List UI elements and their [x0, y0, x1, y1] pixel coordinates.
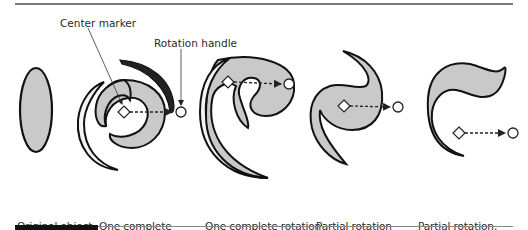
rotation-handle-label: Rotation handle	[154, 37, 237, 49]
panel-label-one-complete: One complete rotation	[99, 195, 172, 230]
rotation-handle-icon	[284, 79, 294, 89]
center-marker-icon	[453, 127, 465, 139]
center-marker-label: Center marker	[60, 17, 136, 29]
spiral-offset-shape	[200, 57, 294, 178]
panel-label-partial: Partial rotation	[316, 195, 392, 230]
spiral-shape	[78, 60, 186, 170]
rotation-handle-icon	[508, 128, 518, 138]
panel-label-one-complete-offset: One complete rotation using center offse…	[205, 195, 321, 230]
center-marker-icon	[118, 106, 130, 118]
rotation-handle-icon	[393, 102, 403, 112]
partial-twist-shape	[311, 51, 403, 164]
panel-label-partial-offset: Partial rotation, using center offset	[418, 195, 515, 230]
ellipse-shape	[20, 68, 52, 152]
bottom-accent-bar	[15, 225, 98, 230]
partial-twist-offset-shape	[428, 63, 518, 156]
rotation-handle-icon	[176, 107, 186, 117]
